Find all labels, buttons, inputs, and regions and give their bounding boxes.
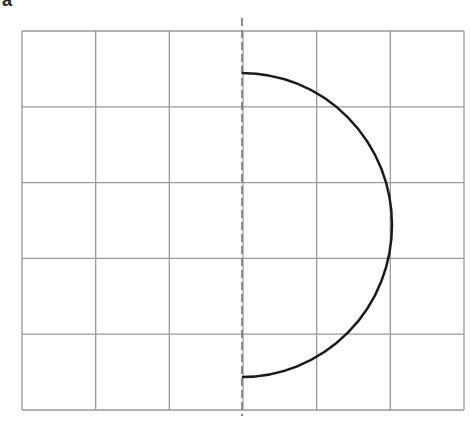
grid — [22, 31, 464, 410]
semicircle-diagram — [0, 0, 470, 427]
